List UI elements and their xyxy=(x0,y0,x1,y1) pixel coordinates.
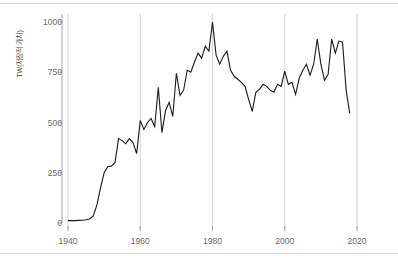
x-tick-label-2020: 2020 xyxy=(337,236,377,246)
y-axis-title: TW(저장적 가치) xyxy=(13,9,27,99)
x-tick-label-2000: 2000 xyxy=(265,236,305,246)
x-tick-label-1940: 1940 xyxy=(48,236,88,246)
x-tick-label-1960: 1960 xyxy=(120,236,160,246)
x-axis-tick-labels: 19401960198020002020 xyxy=(0,0,398,262)
x-tick-label-1980: 1980 xyxy=(193,236,233,246)
chart-screenshot: 02505007501000 19401960198020002020 TW(저… xyxy=(0,0,398,262)
